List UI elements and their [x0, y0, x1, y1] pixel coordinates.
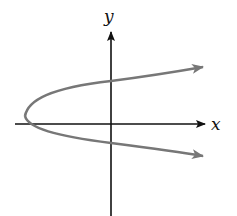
parabola-lower-branch: [25, 116, 203, 156]
parabola-graph: y x: [0, 0, 237, 216]
y-axis-label: y: [103, 6, 114, 26]
x-axis-label: x: [211, 114, 221, 134]
parabola-upper-branch: [25, 67, 203, 116]
